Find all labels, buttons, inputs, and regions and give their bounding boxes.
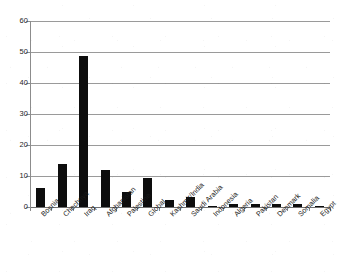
plot-area xyxy=(30,21,330,207)
bar[interactable] xyxy=(101,170,110,207)
gridline-50 xyxy=(30,52,330,53)
y-axis-line xyxy=(30,21,31,208)
x-tick-mark xyxy=(30,207,31,211)
gridline-30 xyxy=(30,114,330,115)
y-tick-label: 60 xyxy=(19,17,28,25)
y-tick-label: 20 xyxy=(19,141,28,149)
bar-chart: 0102030405060 BosniaChechnyaIraqAfghanis… xyxy=(0,0,343,275)
bar[interactable] xyxy=(36,188,45,207)
gridline-20 xyxy=(30,145,330,146)
gridline-40 xyxy=(30,83,330,84)
y-tick-label: 30 xyxy=(19,110,28,118)
gridline-10 xyxy=(30,176,330,177)
y-tick-label: 10 xyxy=(19,172,28,180)
y-tick-label: 40 xyxy=(19,79,28,87)
y-tick-label: 0 xyxy=(24,203,28,211)
bar[interactable] xyxy=(79,56,88,207)
y-tick-label: 50 xyxy=(19,48,28,56)
gridline-60 xyxy=(30,21,330,22)
